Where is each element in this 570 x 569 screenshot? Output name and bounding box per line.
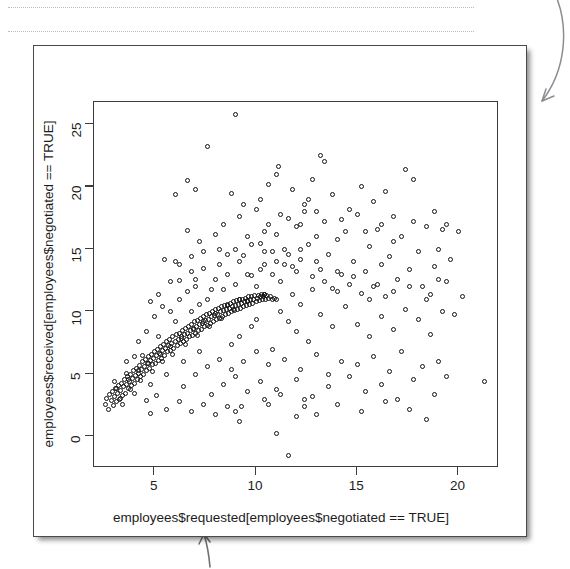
- data-point: [339, 217, 344, 222]
- data-point: [274, 232, 279, 237]
- data-point: [123, 391, 128, 396]
- data-point: [144, 329, 149, 334]
- figure-card: 0510152025 5101520 employees$received[em…: [33, 45, 527, 537]
- data-point: [254, 207, 259, 212]
- data-point: [302, 404, 307, 409]
- data-point: [270, 249, 275, 254]
- data-point: [278, 279, 283, 284]
- data-point: [436, 247, 441, 252]
- data-point: [351, 259, 356, 264]
- data-point: [237, 259, 242, 264]
- data-point: [335, 402, 340, 407]
- data-point: [233, 282, 238, 287]
- data-point: [213, 311, 218, 316]
- data-point: [237, 214, 242, 219]
- data-point: [213, 412, 218, 417]
- data-point: [383, 189, 388, 194]
- data-point: [254, 317, 259, 322]
- data-point: [416, 317, 421, 322]
- data-point: [351, 274, 356, 279]
- data-point: [217, 357, 222, 362]
- data-point: [225, 252, 230, 257]
- data-point: [294, 414, 299, 419]
- scatter-points-layer: [94, 102, 497, 466]
- data-point: [201, 266, 206, 271]
- dotted-rule-second: [8, 31, 474, 32]
- data-point: [314, 209, 319, 214]
- data-point: [359, 184, 364, 189]
- data-point: [424, 297, 429, 302]
- data-point: [420, 284, 425, 289]
- data-point: [359, 409, 364, 414]
- data-point: [375, 227, 380, 232]
- data-point: [164, 407, 169, 412]
- data-point: [221, 287, 226, 292]
- data-point: [444, 279, 449, 284]
- data-point: [411, 177, 416, 182]
- data-point: [452, 312, 457, 317]
- data-point: [318, 153, 323, 158]
- data-point: [274, 259, 279, 264]
- data-point: [347, 207, 352, 212]
- data-point: [456, 229, 461, 234]
- data-point: [343, 229, 348, 234]
- data-point: [173, 319, 178, 324]
- x-axis-tick: [457, 467, 458, 475]
- data-point: [245, 234, 250, 239]
- data-point: [424, 417, 429, 422]
- data-point: [197, 349, 202, 354]
- data-point: [124, 371, 129, 376]
- data-point: [391, 327, 396, 332]
- data-point: [266, 362, 271, 367]
- x-axis-tick-label: 20: [450, 478, 465, 493]
- data-point: [197, 302, 202, 307]
- data-point: [241, 202, 246, 207]
- data-point: [193, 187, 198, 192]
- data-point: [286, 216, 291, 221]
- data-point: [359, 291, 364, 296]
- data-point: [310, 287, 315, 292]
- data-point: [395, 277, 400, 282]
- data-point: [298, 222, 303, 227]
- data-point: [189, 409, 194, 414]
- x-axis-tick: [255, 467, 256, 475]
- data-point: [239, 404, 244, 409]
- data-point: [298, 247, 303, 252]
- data-point: [383, 399, 388, 404]
- data-point: [103, 402, 108, 407]
- data-point: [330, 324, 335, 329]
- data-point: [189, 269, 194, 274]
- data-point: [106, 407, 111, 412]
- data-point: [209, 392, 214, 397]
- data-point: [310, 177, 315, 182]
- data-point: [355, 362, 360, 367]
- data-point: [411, 377, 416, 382]
- data-point: [286, 319, 291, 324]
- data-point: [444, 222, 449, 227]
- data-point: [207, 324, 212, 329]
- data-point: [347, 374, 352, 379]
- data-point: [258, 197, 263, 202]
- data-point: [245, 389, 250, 394]
- data-point: [391, 214, 396, 219]
- data-point: [274, 297, 279, 302]
- data-point: [420, 364, 425, 369]
- data-point: [298, 257, 303, 262]
- data-point: [318, 267, 323, 272]
- data-point: [154, 393, 159, 398]
- data-point: [266, 402, 271, 407]
- data-point: [440, 309, 445, 314]
- data-point: [302, 397, 307, 402]
- data-point: [424, 224, 429, 229]
- data-point: [148, 411, 153, 416]
- data-point: [343, 304, 348, 309]
- data-point: [310, 274, 315, 279]
- data-point: [403, 167, 408, 172]
- data-point: [310, 394, 315, 399]
- data-point: [282, 262, 287, 267]
- data-point: [183, 342, 188, 347]
- data-point: [290, 187, 295, 192]
- data-point: [162, 257, 167, 262]
- data-point: [241, 359, 246, 364]
- data-point: [189, 309, 194, 314]
